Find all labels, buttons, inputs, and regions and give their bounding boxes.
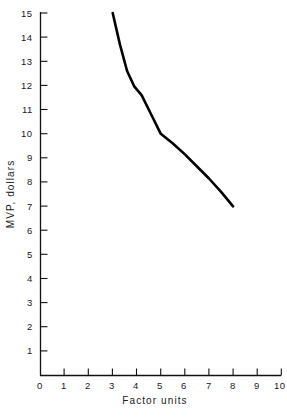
x-tick-label: 7: [206, 380, 212, 391]
y-tick-label: 7: [27, 201, 33, 212]
y-tick-label: 9: [27, 152, 33, 163]
data-series-line: [113, 13, 233, 206]
x-axis-title: Factor units: [122, 395, 187, 406]
y-tick-label: 12: [21, 80, 32, 91]
x-tick-label: 5: [157, 380, 163, 391]
y-tick-label: 13: [21, 56, 32, 67]
x-tick-label: 8: [230, 380, 236, 391]
x-axis-ticks: [64, 369, 281, 376]
x-tick-label: 1: [61, 380, 67, 391]
y-tick-label: 2: [27, 321, 33, 332]
x-tick-label: 2: [85, 380, 91, 391]
y-tick-label: 15: [21, 8, 32, 19]
x-tick-label: 4: [133, 380, 139, 391]
y-tick-label: 3: [27, 297, 33, 308]
y-tick-label: 1: [27, 345, 33, 356]
x-tick-label: 0: [37, 380, 43, 391]
y-tick-label: 5: [27, 249, 33, 260]
chart-canvas: MVP, dollars Factor units: [0, 0, 287, 417]
y-axis-title: MVP, dollars: [5, 160, 16, 229]
x-tick-label: 10: [274, 380, 285, 391]
x-tick-label: 6: [181, 380, 187, 391]
x-tick-label: 3: [109, 380, 115, 391]
y-tick-label: 8: [27, 176, 33, 187]
y-tick-label: 11: [22, 104, 33, 115]
x-tick-label: 9: [254, 380, 260, 391]
y-tick-label: 10: [21, 128, 32, 139]
y-axis-ticks: [41, 13, 48, 351]
y-tick-label: 6: [27, 225, 33, 236]
y-tick-label: 14: [21, 32, 32, 43]
chart-figure: MVP, dollars Factor units 1 2 3 4 5 6 7 …: [0, 0, 287, 417]
y-tick-label: 4: [27, 273, 33, 284]
